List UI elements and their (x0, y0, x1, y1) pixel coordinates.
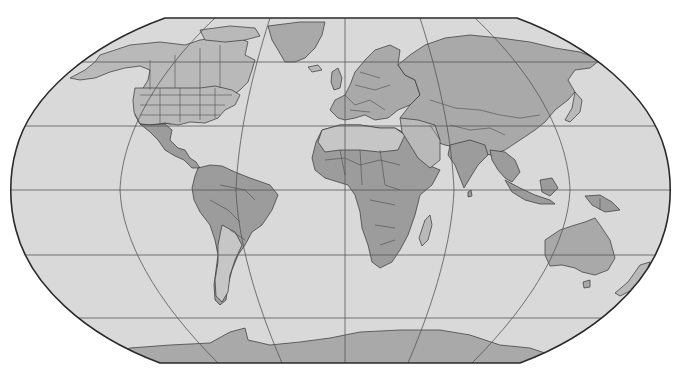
world-map (0, 0, 681, 372)
map-canvas (0, 0, 681, 372)
region-north-africa (318, 125, 405, 152)
